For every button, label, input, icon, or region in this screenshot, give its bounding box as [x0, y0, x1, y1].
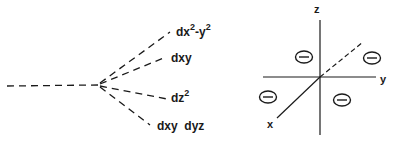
label-dx2-y2: dx2-y2 — [176, 26, 211, 38]
branch-dxy-dyz — [100, 87, 150, 125]
label-dx2-y2-sup2: 2 — [206, 22, 211, 32]
label-dz2-base: dz — [171, 91, 184, 105]
degenerate-level-line — [7, 85, 98, 86]
label-dz2: dz2 — [171, 92, 189, 104]
z-axis-label: z — [314, 4, 320, 15]
branch-dx2-y2 — [100, 32, 170, 83]
label-dxy: dxy — [171, 52, 192, 64]
branch-dxy — [100, 57, 166, 84]
x-axis-label: x — [267, 119, 273, 130]
coordinate-axes — [263, 20, 376, 135]
x-axis — [277, 77, 320, 118]
charge-upper-right-icon — [364, 52, 381, 64]
negative-x-axis-dashed — [320, 42, 363, 77]
label-dx2-y2-sup1: 2 — [190, 22, 195, 32]
charge-lower-right-icon — [334, 94, 351, 106]
y-axis-label: y — [380, 74, 386, 85]
label-dz2-sup1: 2 — [184, 88, 189, 98]
charge-upper-left-icon — [296, 51, 313, 63]
label-dx2-y2-mid: -y — [195, 25, 206, 39]
splitting-lines — [7, 32, 170, 125]
label-dxy-dyz: dxy dyz — [157, 120, 204, 132]
label-dx2-y2-base: dx — [176, 25, 190, 39]
charge-lower-left-icon — [260, 91, 277, 103]
branch-dz2 — [100, 86, 167, 99]
